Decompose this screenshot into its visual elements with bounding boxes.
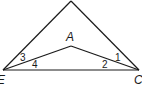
triangle-diagram: A E C 1 2 3 4: [0, 0, 142, 88]
point-label-E: E: [0, 73, 6, 87]
point-label-C: C: [134, 73, 142, 87]
angle-label-2: 2: [102, 59, 108, 70]
angle-label-4: 4: [32, 59, 38, 70]
angle-label-1: 1: [115, 52, 121, 63]
point-label-A: A: [65, 30, 74, 44]
angle-label-3: 3: [20, 52, 26, 63]
